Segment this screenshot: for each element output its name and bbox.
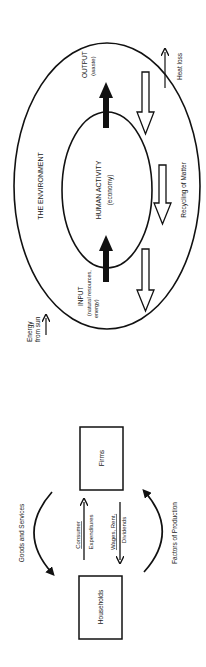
recycling-arrow-icon <box>137 249 154 311</box>
waste-label: (waste) <box>90 56 96 76</box>
recycling-arrow-icon <box>137 72 154 134</box>
input-natural-resources-label: (natural resources, <box>86 270 92 316</box>
dividends-label: Dividends <box>121 517 127 543</box>
environment-label: THE ENVIRONMENT <box>37 151 44 219</box>
factors-production-label: Factors of Production <box>171 502 178 564</box>
firms-label: Firms <box>98 449 105 466</box>
economy-label: (economy) <box>106 175 114 206</box>
goods-services-arrow-icon <box>34 492 52 573</box>
input-energy-label: energy) <box>93 299 99 318</box>
environment-diagram: THE ENVIRONMENT HUMAN ACTIVITY (economy)… <box>14 43 200 342</box>
human-activity-label: HUMAN ACTIVITY <box>95 160 102 219</box>
circular-flow-diagram: Firms Households Goods and Services Fact… <box>18 427 178 639</box>
recycling-arrow-icon <box>154 165 171 224</box>
output-arrow-icon <box>99 82 113 128</box>
consumer-label: Consumer <box>75 521 81 549</box>
from-sun-label: from sun <box>34 316 41 342</box>
input-arrow-icon <box>99 235 113 282</box>
households-label: Households <box>97 589 104 624</box>
factors-production-arrow-icon <box>144 492 162 572</box>
wages-rent-label: Wages, Rent, <box>110 514 116 550</box>
input-label: INPUT <box>77 286 84 306</box>
expenditures-label: Expenditures <box>88 514 94 549</box>
output-label: OUTPUT <box>81 51 88 78</box>
diagram-canvas: THE ENVIRONMENT HUMAN ACTIVITY (economy)… <box>0 0 206 667</box>
heat-loss-label: Heat loss <box>176 52 183 80</box>
goods-services-label: Goods and Services <box>18 503 25 562</box>
energy-label: Energy <box>26 321 34 342</box>
recycling-label: Recycling of Matter <box>180 161 188 217</box>
